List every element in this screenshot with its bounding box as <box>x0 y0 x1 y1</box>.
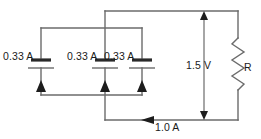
label-total-current: 1.0 A <box>155 122 179 133</box>
current-arrowhead-total <box>141 116 154 124</box>
label-cell-3-current: 0.33 A <box>104 51 134 62</box>
current-arrow-cell-3 <box>137 80 147 92</box>
voltage-arrowhead-bottom <box>200 111 208 120</box>
label-resistor: R <box>244 62 252 73</box>
voltage-arrowhead-top <box>200 11 208 20</box>
resistor-zigzag <box>232 38 244 90</box>
circuit-schematic-svg <box>0 0 261 139</box>
label-cell-1-current: 0.33 A <box>3 51 33 62</box>
label-cell-2-current: 0.33 A <box>67 51 97 62</box>
current-arrow-cell-1 <box>36 80 46 92</box>
current-arrow-cell-2 <box>100 80 110 92</box>
label-source-voltage: 1.5 V <box>186 60 211 71</box>
circuit-diagram-canvas: 0.33 A 0.33 A 0.33 A 1.5 V R 1.0 A <box>0 0 261 139</box>
